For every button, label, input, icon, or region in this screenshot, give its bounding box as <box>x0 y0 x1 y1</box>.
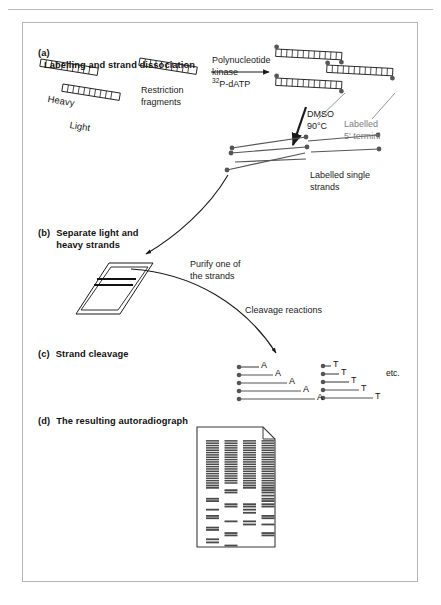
gel-band <box>225 503 238 505</box>
gel-band <box>262 515 275 517</box>
gel-band <box>262 464 275 466</box>
gel-band <box>243 473 256 475</box>
label-datp-rest: P-dATP <box>219 79 250 89</box>
gel-band <box>243 452 256 454</box>
gel-band <box>262 475 275 477</box>
gel-band <box>262 457 275 459</box>
gel-band <box>262 532 275 534</box>
diagram-vector-layer <box>23 23 419 583</box>
gel-band <box>262 517 275 519</box>
restriction-fragment-third <box>139 58 197 74</box>
gel-band <box>262 473 275 475</box>
gel-band <box>225 478 238 480</box>
label-restriction-fragments: Restriction fragments <box>141 85 184 108</box>
cleavage-base-T-1: T <box>333 359 339 369</box>
gel-band <box>262 503 275 505</box>
cleavage-base-A-2: A <box>275 368 281 378</box>
termini-leader-right <box>372 93 395 119</box>
gel-band <box>262 466 275 468</box>
gel-band <box>206 482 219 484</box>
page-header-rule <box>8 9 433 10</box>
gel-band <box>206 445 219 447</box>
gel-band <box>262 445 275 447</box>
label-purify-strands: Purify one of the strands <box>190 259 241 282</box>
gel-band <box>206 459 219 461</box>
dmso-arrow <box>293 107 306 145</box>
gel-band <box>225 489 238 491</box>
gel-band <box>243 480 256 482</box>
gel-band <box>262 440 275 442</box>
gel-band <box>243 447 256 449</box>
labelled-duplex-2 <box>324 60 395 80</box>
labelled-duplex-3 <box>273 73 344 93</box>
gel-band <box>243 482 256 484</box>
gel-band <box>262 498 275 500</box>
single-strand-6 <box>235 159 306 162</box>
gel-band <box>243 445 256 447</box>
gel-band <box>206 485 219 487</box>
gel-band <box>243 459 256 461</box>
gel-band <box>243 512 256 514</box>
cleavage-base-T-3: T <box>351 375 357 385</box>
gel-band <box>225 457 238 459</box>
gel-band <box>243 503 256 505</box>
gel-band <box>225 520 238 522</box>
gel-band <box>225 471 238 473</box>
gel-band <box>225 464 238 466</box>
gel-band <box>243 468 256 470</box>
gel-band <box>243 487 256 489</box>
gel-band <box>225 492 238 494</box>
gel-band <box>262 489 275 491</box>
gel-band <box>243 520 256 522</box>
gel-band <box>262 468 275 470</box>
gel-band <box>243 485 256 487</box>
gel-band <box>206 542 219 544</box>
gel-band <box>225 440 238 442</box>
gel-band <box>206 473 219 475</box>
gel-band <box>243 478 256 480</box>
gel-band <box>206 464 219 466</box>
gel-band <box>262 452 275 454</box>
gel-band <box>206 538 219 540</box>
gel-band <box>206 487 219 489</box>
gel-band <box>243 466 256 468</box>
label-labelled-single-strands: Labelled single strands <box>310 170 370 193</box>
gel-band <box>225 461 238 463</box>
gel-band <box>262 495 275 497</box>
gel-band <box>225 466 238 468</box>
gel-band <box>225 545 238 547</box>
gel-band <box>262 447 275 449</box>
labelled-duplex-1 <box>273 44 344 64</box>
cleavage-base-T-2: T <box>341 367 347 377</box>
gel-band <box>262 487 275 489</box>
gel-band <box>206 461 219 463</box>
gel-band <box>206 517 219 519</box>
label-p32-datp: 32P-dATP <box>212 75 250 91</box>
gel-band <box>225 532 238 534</box>
cleavage-base-A-3: A <box>289 376 295 386</box>
gel-band <box>225 442 238 444</box>
gel-band <box>262 471 275 473</box>
gel-band <box>206 480 219 482</box>
label-labelled-5-termini: Labelled 5′ termini <box>344 119 380 142</box>
gel-band <box>225 447 238 449</box>
gel-band <box>206 471 219 473</box>
label-dmso: DMSO 90°C <box>307 109 334 132</box>
gel-band <box>243 475 256 477</box>
cleavage-base-A-1: A <box>261 360 267 370</box>
gel-band <box>206 454 219 456</box>
gel-band <box>262 492 275 494</box>
gel-band <box>206 457 219 459</box>
gel-band <box>206 452 219 454</box>
cleavage-base-T-5: T <box>375 391 381 401</box>
gel-band <box>243 509 256 511</box>
gel-band <box>225 473 238 475</box>
gel-band <box>225 506 238 508</box>
gel-tray <box>76 263 153 314</box>
gel-band <box>262 454 275 456</box>
gel-band <box>262 500 275 502</box>
gel-band <box>206 466 219 468</box>
gel-band <box>206 509 219 511</box>
gel-band <box>243 440 256 442</box>
gel-band <box>225 445 238 447</box>
